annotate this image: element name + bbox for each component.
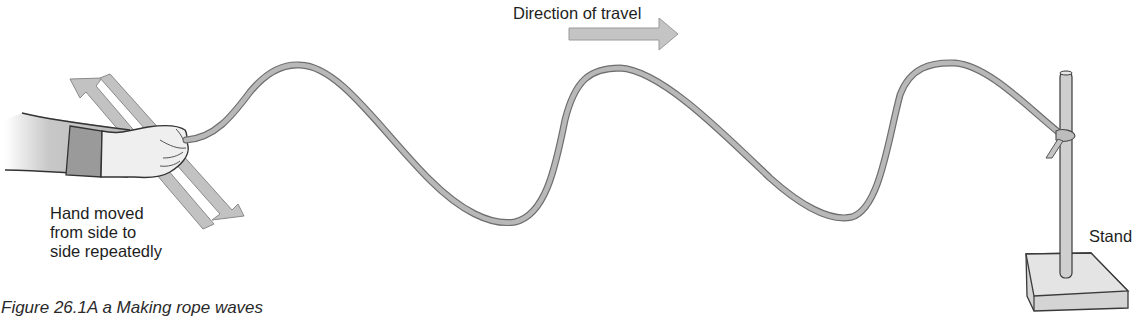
retort-stand-icon: [1026, 71, 1128, 311]
hand-holding-rope-icon: [5, 113, 188, 177]
direction-of-travel-label: Direction of travel: [513, 4, 641, 23]
hand-label-line-3: side repeatedly: [50, 242, 162, 261]
stand-label: Stand: [1089, 227, 1132, 246]
figure-caption: Figure 26.1A a Making rope waves: [1, 298, 263, 318]
hand-label-line-2: from side to: [50, 223, 162, 242]
wave-rope-icon: [186, 63, 1062, 223]
hand-movement-label: Hand moved from side to side repeatedly: [50, 204, 162, 261]
hand-label-line-1: Hand moved: [50, 204, 162, 223]
